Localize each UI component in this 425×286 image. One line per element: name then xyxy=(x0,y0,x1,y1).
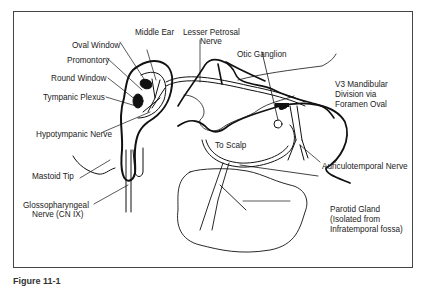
label-v3-1: V3 Mandibular xyxy=(335,80,388,89)
oval-window xyxy=(139,78,153,91)
label-hypotympanic-nerve: Hypotympanic Nerve xyxy=(36,130,112,139)
label-otic-ganglion: Otic Ganglion xyxy=(237,50,287,59)
label-mastoid-tip: Mastoid Tip xyxy=(32,172,74,181)
label-middle-ear: Middle Ear xyxy=(135,28,174,37)
label-v3-2: Division via xyxy=(335,90,376,99)
label-round-window: Round Window xyxy=(51,74,107,83)
parotid-gland-outline xyxy=(178,169,307,252)
label-parotid-1: Parotid Gland xyxy=(330,205,380,214)
label-parotid-2: (Isolated from xyxy=(330,215,380,224)
label-tympanic-plexus: Tympanic Plexus xyxy=(43,93,105,102)
label-oval-window: Oval Window xyxy=(72,41,120,50)
label-lesser-petrosal-2: Nerve xyxy=(200,37,222,46)
label-parotid-3: Infratemporal fossa) xyxy=(330,225,403,234)
otic-ganglion xyxy=(274,120,282,128)
figure-caption: Figure 11-1 xyxy=(13,276,61,286)
label-glossopharyngeal-2: Nerve (CN IX) xyxy=(32,210,83,219)
label-to-scalp: To Scalp xyxy=(215,141,246,150)
label-v3-3: Foramen Oval xyxy=(335,100,387,109)
label-lesser-petrosal-1: Lesser Petrosal xyxy=(183,28,240,37)
label-glossopharyngeal-1: Glossopharyngeal xyxy=(23,201,89,210)
label-auriculotemporal-nerve: Auriculotemporal Nerve xyxy=(322,162,408,171)
label-promontory: Promontory xyxy=(67,56,109,65)
